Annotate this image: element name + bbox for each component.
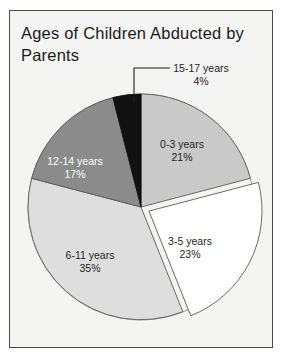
pie-value-12-14-years: 17% — [64, 168, 85, 180]
pie-value-15-17-years: 4% — [193, 75, 208, 87]
pie-label-15-17-years: 15-17 years — [173, 62, 228, 74]
pie-label-0-3-years: 0-3 years — [160, 138, 204, 150]
pie-chart: 0-3 years 21% 3-5 years 23% 6-11 years 3… — [10, 11, 272, 347]
pie-label-12-14-years: 12-14 years — [47, 155, 102, 167]
pie-label-6-11-years: 6-11 years — [66, 249, 115, 261]
pie-value-0-3-years: 21% — [171, 151, 192, 163]
pie-value-3-5-years: 23% — [179, 248, 200, 260]
pie-value-6-11-years: 35% — [79, 262, 100, 274]
pie-chart-svg: 0-3 years 21% 3-5 years 23% 6-11 years 3… — [10, 11, 272, 347]
pie-label-3-5-years: 3-5 years — [168, 235, 212, 247]
figure-frame: Ages of Children Abducted by Parents 0-3… — [9, 10, 273, 348]
